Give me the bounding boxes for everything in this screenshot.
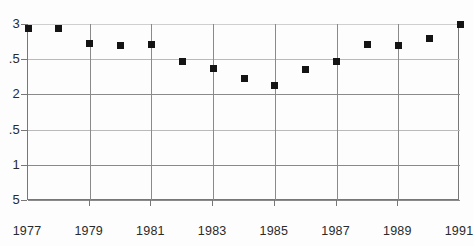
data-point xyxy=(364,41,371,48)
x-axis-tick xyxy=(89,200,90,206)
x-axis-label: 1989 xyxy=(383,224,412,238)
data-point xyxy=(86,40,93,47)
y-axis-label: 5 xyxy=(13,192,20,207)
x-axis-tick xyxy=(397,200,398,206)
data-point xyxy=(179,58,186,65)
y-axis-tick xyxy=(21,130,27,131)
data-point xyxy=(271,82,278,89)
gridline-vertical xyxy=(275,24,276,200)
x-axis-tick xyxy=(212,200,213,206)
gridline-vertical xyxy=(151,24,152,200)
y-axis-label: 2 xyxy=(13,86,20,101)
y-axis-tick xyxy=(21,94,27,95)
data-point xyxy=(457,21,464,28)
x-axis-label: 1987 xyxy=(321,224,350,238)
gridline-horizontal xyxy=(28,130,460,131)
y-axis-label: .5 xyxy=(9,51,20,66)
data-point xyxy=(302,66,309,73)
y-axis-tick xyxy=(21,59,27,60)
data-point xyxy=(333,58,340,65)
x-axis-label: 1981 xyxy=(136,224,165,238)
y-axis-tick xyxy=(21,165,27,166)
data-point xyxy=(210,65,217,72)
x-axis-tick xyxy=(150,200,151,206)
gridline-horizontal xyxy=(28,59,460,60)
data-point xyxy=(117,42,124,49)
y-axis-tick xyxy=(21,24,27,25)
x-axis-tick xyxy=(274,200,275,206)
x-axis-label: 1983 xyxy=(198,224,227,238)
y-axis-tick xyxy=(21,200,27,201)
data-point xyxy=(426,35,433,42)
gridline-horizontal xyxy=(28,94,460,95)
x-axis-label: 1985 xyxy=(260,224,289,238)
y-axis-label: 1 xyxy=(13,157,20,172)
gridline-vertical xyxy=(213,24,214,200)
data-point xyxy=(395,42,402,49)
gridline-horizontal xyxy=(28,200,460,201)
data-point xyxy=(55,25,62,32)
data-point xyxy=(241,75,248,82)
plot-area xyxy=(27,24,459,200)
x-axis-tick xyxy=(336,200,337,206)
gridline-vertical xyxy=(337,24,338,200)
y-axis-label: .5 xyxy=(9,122,20,137)
x-axis-label: 1979 xyxy=(74,224,103,238)
gridline-vertical xyxy=(90,24,91,200)
x-axis-label: 1977 xyxy=(13,224,42,238)
y-axis-label: 3 xyxy=(13,16,20,31)
gridline-horizontal xyxy=(28,165,460,166)
data-point xyxy=(148,41,155,48)
gridline-vertical xyxy=(398,24,399,200)
scatter-chart: 3.52.515 1977197919811983198519871989199… xyxy=(0,0,474,246)
x-axis-label: 1991 xyxy=(445,224,474,238)
data-point xyxy=(25,25,32,32)
